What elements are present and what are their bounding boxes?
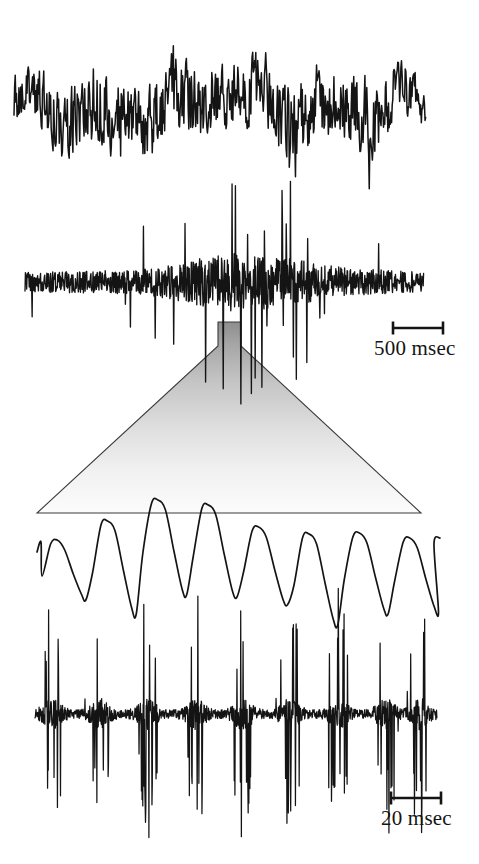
electrophysiology-figure	[0, 0, 479, 864]
scalebar-bottom-label: 20 msec	[381, 806, 452, 831]
scalebar-top-label: 500 msec	[374, 336, 456, 361]
